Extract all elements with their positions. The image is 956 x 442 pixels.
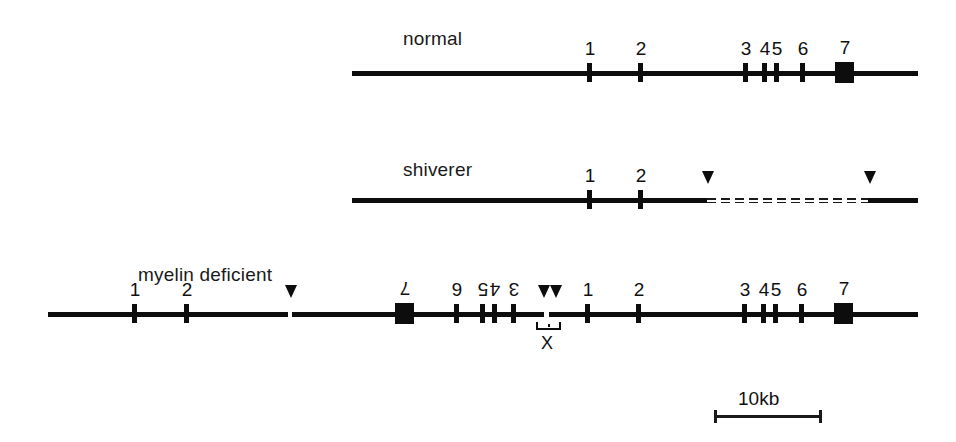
scale-bar-cap-right bbox=[819, 410, 822, 423]
scale-bar-cap-left bbox=[714, 410, 717, 423]
scale-bar-line bbox=[714, 415, 822, 418]
scale-bar-label: 10kb bbox=[738, 389, 779, 408]
gene-map-figure: normal1234567shiverer12myelin deficient1… bbox=[0, 0, 956, 442]
scale-bar: 10kb bbox=[0, 0, 956, 442]
